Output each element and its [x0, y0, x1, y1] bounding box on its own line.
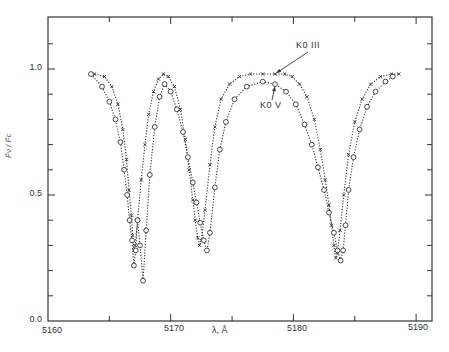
circle-marker [194, 200, 199, 205]
circle-marker [100, 84, 105, 89]
x-marker [147, 113, 150, 116]
x-marker [219, 98, 222, 101]
circle-marker [232, 97, 237, 102]
circle-marker [338, 258, 343, 263]
x-marker [143, 143, 146, 146]
ytick-label-0.5: 0.5 [12, 188, 42, 198]
x-marker [194, 219, 197, 222]
circle-marker [341, 248, 346, 253]
x-axis-title: λ, Å [212, 325, 228, 335]
circle-marker [212, 185, 217, 190]
x-marker [249, 72, 252, 75]
circle-marker [89, 72, 94, 77]
circle-marker [198, 220, 203, 225]
circle-marker [181, 130, 186, 135]
circle-marker [351, 155, 356, 160]
circle-marker [131, 263, 136, 268]
circle-marker [135, 218, 140, 223]
x-marker [291, 75, 294, 78]
circle-marker [260, 79, 265, 84]
circle-marker [373, 89, 378, 94]
circle-marker [144, 228, 149, 233]
x-marker [157, 77, 160, 80]
y-axis-title: F̄ν / F̄c [4, 134, 13, 158]
circle-marker [224, 120, 229, 125]
x-marker [361, 98, 364, 101]
xtick-label-5190: 5190 [398, 322, 438, 332]
x-marker [167, 75, 170, 78]
circle-marker [390, 74, 395, 79]
x-marker [305, 95, 308, 98]
legend-label-k0-v: K0 V [260, 100, 282, 110]
x-marker [283, 72, 286, 75]
series-k0-iii [93, 72, 400, 259]
circle-marker [185, 155, 190, 160]
x-marker [369, 83, 372, 86]
circle-marker [309, 142, 314, 147]
circle-marker [157, 94, 162, 99]
circle-marker [316, 165, 321, 170]
x-marker [332, 244, 335, 247]
circle-marker [118, 140, 123, 145]
series-k0-v [89, 72, 396, 283]
xtick-label-5170: 5170 [154, 323, 194, 333]
circle-marker [383, 79, 388, 84]
circle-marker [208, 230, 213, 235]
x-marker [228, 83, 231, 86]
circle-marker [152, 125, 157, 130]
axis-ticks [48, 17, 432, 321]
circle-marker [204, 248, 209, 253]
circle-marker [273, 82, 278, 87]
x-marker [191, 198, 194, 201]
circle-marker [147, 172, 152, 177]
circle-marker [133, 248, 138, 253]
circle-marker [141, 278, 146, 283]
circle-marker [365, 104, 370, 109]
circle-marker [322, 188, 327, 193]
circle-marker [113, 117, 118, 122]
circle-marker [168, 89, 173, 94]
ytick-label-0: 0.0 [12, 314, 42, 324]
circle-marker [346, 188, 351, 193]
circle-marker [327, 210, 332, 215]
xtick-label-5160: 5160 [32, 325, 72, 335]
circle-marker [343, 223, 348, 228]
ytick-label-1.0: 1.0 [12, 62, 42, 72]
x-marker [110, 85, 113, 88]
circle-marker [302, 122, 307, 127]
circle-marker [293, 102, 298, 107]
circle-marker [357, 127, 362, 132]
arrow-k0-v [272, 87, 276, 100]
circle-marker [335, 248, 340, 253]
circle-marker [162, 82, 167, 87]
x-marker [298, 83, 301, 86]
circle-marker [127, 218, 132, 223]
circle-marker [201, 238, 206, 243]
circle-marker [244, 84, 249, 89]
plot-frame [48, 17, 432, 321]
legend-label-k0-iii: K0 III [296, 40, 320, 50]
circle-marker [284, 89, 289, 94]
spectrum-chart [0, 0, 449, 352]
circle-marker [138, 243, 143, 248]
x-marker [203, 209, 206, 212]
circle-marker [122, 167, 127, 172]
circle-marker [130, 238, 135, 243]
arrow-k0-iii [276, 52, 308, 73]
x-marker [213, 125, 216, 128]
circle-marker [217, 147, 222, 152]
circle-marker [174, 107, 179, 112]
circle-marker [125, 193, 130, 198]
xtick-label-5180: 5180 [277, 323, 317, 333]
circle-marker [331, 230, 336, 235]
series-layer [89, 72, 401, 283]
circle-marker [107, 99, 112, 104]
circle-marker [190, 180, 195, 185]
